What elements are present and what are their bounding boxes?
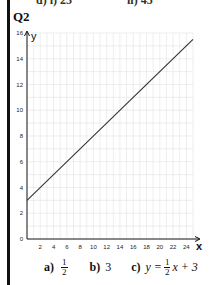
svg-text:10: 10 <box>90 244 97 250</box>
answer-b-label: b) <box>90 260 101 275</box>
svg-text:8: 8 <box>78 244 82 250</box>
axes: yx <box>25 30 204 252</box>
svg-text:4: 4 <box>20 185 24 191</box>
answer-b: b) 3 <box>90 260 112 275</box>
svg-text:2: 2 <box>39 244 43 250</box>
svg-text:20: 20 <box>156 244 163 250</box>
answer-c-rhs: x + 3 <box>172 260 197 275</box>
svg-text:16: 16 <box>16 30 23 36</box>
svg-text:y: y <box>31 30 37 42</box>
svg-text:14: 14 <box>16 56 23 62</box>
svg-text:10: 10 <box>16 107 23 113</box>
line-chart: yx 246810121416182022240246810121416 <box>0 0 214 258</box>
answer-c-label: c) <box>131 260 140 275</box>
tick-labels: 246810121416182022240246810121416 <box>16 30 190 250</box>
svg-text:8: 8 <box>20 133 24 139</box>
svg-text:0: 0 <box>20 236 24 242</box>
answer-a-label: a) <box>44 260 54 275</box>
svg-text:x: x <box>196 240 203 252</box>
answer-c: c) y = 1 2 x + 3 <box>131 258 198 277</box>
svg-text:16: 16 <box>130 244 137 250</box>
answer-a: a) 1 2 <box>44 258 70 277</box>
answer-b-value: 3 <box>105 260 111 275</box>
answers-row: a) 1 2 b) 3 c) y = 1 2 x + 3 <box>44 258 214 277</box>
svg-text:22: 22 <box>170 244 177 250</box>
svg-text:6: 6 <box>20 159 24 165</box>
svg-text:4: 4 <box>52 244 56 250</box>
data-line <box>27 39 193 200</box>
svg-text:12: 12 <box>16 82 23 88</box>
answer-a-fraction: 1 2 <box>61 258 68 277</box>
answer-c-lhs: y = <box>146 260 162 275</box>
answer-c-fraction: 1 2 <box>164 258 171 277</box>
svg-text:2: 2 <box>20 210 24 216</box>
svg-text:6: 6 <box>65 244 69 250</box>
svg-text:18: 18 <box>143 244 150 250</box>
svg-text:12: 12 <box>103 244 110 250</box>
svg-text:24: 24 <box>183 244 190 250</box>
svg-text:14: 14 <box>117 244 124 250</box>
